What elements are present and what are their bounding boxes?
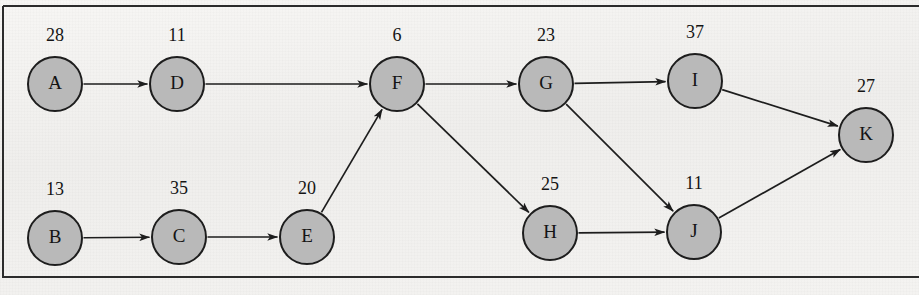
edge-h-to-j [578,232,664,233]
graph-node-c[interactable]: C35 [152,178,206,264]
graph-node-k[interactable]: K27 [839,76,893,162]
graph-node-f[interactable]: F6 [370,25,424,111]
node-label-f: F [392,72,403,93]
edge-j-to-k [719,149,840,218]
node-weight-a: 28 [46,25,64,45]
node-weight-j: 11 [685,173,702,193]
node-weight-f: 6 [393,25,402,45]
graph-node-e[interactable]: E20 [280,178,334,264]
node-label-k: K [859,123,873,144]
edges-group [83,82,840,238]
edge-f-to-h [417,104,528,213]
graph-node-g[interactable]: G23 [519,25,573,111]
node-label-g: G [539,72,553,93]
node-weight-b: 13 [46,179,64,199]
node-weight-h: 25 [541,174,559,194]
graph-node-j[interactable]: J11 [667,173,721,259]
node-label-c: C [173,225,186,246]
node-label-h: H [543,221,557,242]
figure-page: A28D11F6G23I37K27B13C35E20H25J11 [0,0,919,295]
node-label-i: I [692,69,698,90]
nodes-group: A28D11F6G23I37K27B13C35E20H25J11 [28,22,893,265]
graph-node-h[interactable]: H25 [523,174,577,260]
node-label-e: E [301,225,313,246]
node-weight-d: 11 [168,25,185,45]
graph-canvas: A28D11F6G23I37K27B13C35E20H25J11 [0,0,919,295]
node-weight-g: 23 [537,25,555,45]
node-label-b: B [49,226,62,247]
graph-node-d[interactable]: D11 [150,25,204,111]
node-weight-i: 37 [686,22,704,42]
node-weight-e: 20 [298,178,316,198]
node-weight-k: 27 [857,76,875,96]
edge-i-to-k [722,90,838,127]
graph-node-a[interactable]: A28 [28,25,82,111]
node-weight-c: 35 [170,178,188,198]
edge-b-to-c [83,237,149,238]
node-label-d: D [170,72,184,93]
edge-g-to-j [566,104,673,211]
graph-node-i[interactable]: I37 [668,22,722,108]
edge-g-to-i [574,82,665,84]
graph-node-b[interactable]: B13 [28,179,82,265]
edge-e-to-f [321,109,382,212]
node-label-j: J [690,220,697,241]
figure-frame [3,6,919,277]
node-label-a: A [48,72,62,93]
